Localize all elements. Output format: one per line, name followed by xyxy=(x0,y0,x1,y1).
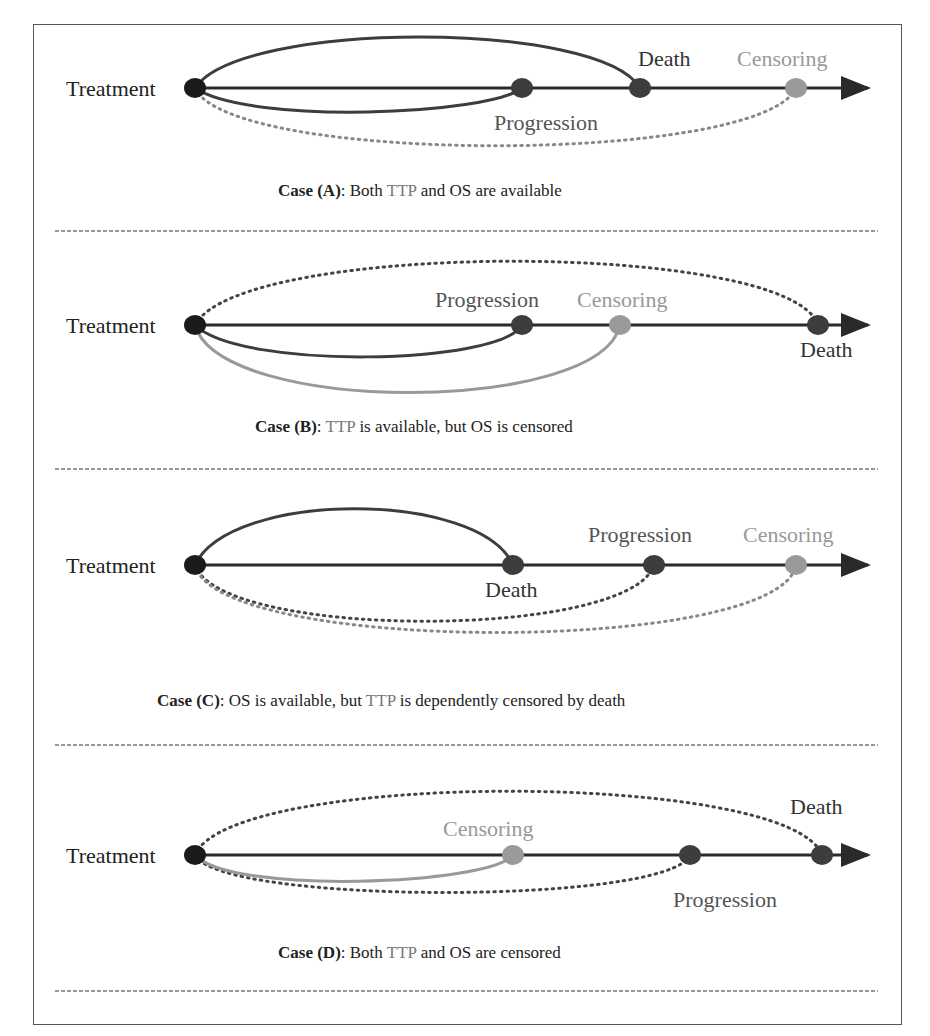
censoring-node xyxy=(785,78,807,98)
caption-a: Case (A): Both TTP and OS are available xyxy=(278,181,562,200)
progression-label: Progression xyxy=(673,887,777,912)
caption-d: Case (D): Both TTP and OS are censored xyxy=(278,943,561,962)
censoring-label: Censoring xyxy=(443,816,533,841)
treatment-label: Treatment xyxy=(66,313,156,338)
progression-node xyxy=(511,78,533,98)
death-label: Death xyxy=(790,794,843,819)
progression-label: Progression xyxy=(494,110,598,135)
treatment-label: Treatment xyxy=(66,843,156,868)
progression-label: Progression xyxy=(435,287,539,312)
panel-b: Treatment Progression Censoring Death Ca… xyxy=(55,261,878,469)
panel-d: Treatment Censoring Death Progression Ca… xyxy=(55,791,878,991)
panel-a: Treatment Progression Death Censoring Ca… xyxy=(55,37,878,231)
death-label: Death xyxy=(485,577,538,602)
death-label: Death xyxy=(800,337,853,362)
caption-c: Case (C): OS is available, but TTP is de… xyxy=(157,691,626,710)
treatment-label: Treatment xyxy=(66,553,156,578)
survival-diagram: Treatment Progression Death Censoring Ca… xyxy=(0,0,930,1036)
progression-label: Progression xyxy=(588,522,692,547)
censoring-label: Censoring xyxy=(743,522,833,547)
panel-c: Treatment Death Progression Censoring Ca… xyxy=(55,509,878,745)
death-node xyxy=(629,78,651,98)
death-label: Death xyxy=(638,46,691,71)
treatment-label: Treatment xyxy=(66,76,156,101)
treatment-node xyxy=(184,78,206,98)
censoring-label: Censoring xyxy=(737,46,827,71)
censoring-label: Censoring xyxy=(577,287,667,312)
caption-b: Case (B): TTP is available, but OS is ce… xyxy=(255,417,573,436)
